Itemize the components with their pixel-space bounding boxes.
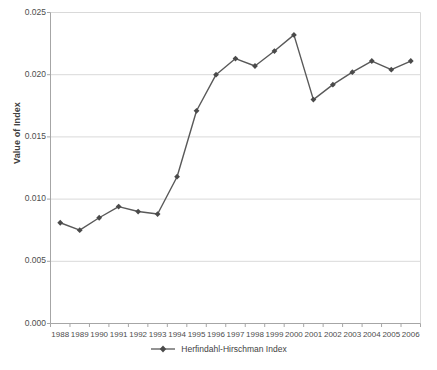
data-point-marker — [369, 58, 375, 64]
x-axis-tick-label: 1991 — [110, 331, 128, 339]
data-point-marker — [408, 58, 414, 64]
x-axis-tick-label: 1996 — [207, 331, 225, 339]
data-point-marker — [116, 204, 122, 210]
line-chart-plot — [0, 0, 437, 370]
series-line — [60, 35, 411, 230]
y-axis-tick-label: 0.020 — [2, 70, 46, 79]
x-axis-tick-label: 1993 — [149, 331, 167, 339]
data-point-marker — [57, 220, 63, 226]
x-axis-tick-label: 1997 — [227, 331, 245, 339]
x-axis-tick-label: 1999 — [266, 331, 284, 339]
x-axis-tick-label: 1998 — [246, 331, 264, 339]
series-herfindahl-hirschman-index — [57, 32, 413, 233]
data-point-marker — [194, 108, 200, 114]
x-axis-tick-label: 2004 — [363, 331, 381, 339]
legend-marker-icon — [150, 344, 176, 354]
y-axis-tick-label: 0.015 — [2, 132, 46, 141]
data-point-marker — [155, 211, 161, 217]
x-axis-tick-label: 1995 — [188, 331, 206, 339]
chart-container: Value of Index 0.0250.0200.0150.0100.005… — [0, 0, 437, 370]
x-axis-tick-label: 1992 — [129, 331, 147, 339]
y-axis-tick-label: 0.025 — [2, 8, 46, 17]
x-axis-tick-label: 2002 — [324, 331, 342, 339]
x-axis-tick-label: 2005 — [382, 331, 400, 339]
x-axis-tick-label: 2000 — [285, 331, 303, 339]
data-point-marker — [135, 209, 141, 215]
chart-legend: Herfindahl-Hirschman Index — [0, 344, 437, 356]
y-axis-tick-label: 0.000 — [2, 319, 46, 328]
x-axis-tick-label: 1994 — [168, 331, 186, 339]
x-axis-ticks — [51, 324, 421, 328]
x-axis-tick-label: 1988 — [51, 331, 69, 339]
data-point-marker — [174, 174, 180, 180]
x-axis-tick-label: 1989 — [71, 331, 89, 339]
y-axis-tick-label: 0.005 — [2, 256, 46, 265]
x-axis-tick-label: 2001 — [304, 331, 322, 339]
legend-label-herfindahl-hirschman-index: Herfindahl-Hirschman Index — [181, 345, 286, 354]
data-point-marker — [388, 67, 394, 73]
x-axis-tick-label: 1990 — [90, 331, 108, 339]
x-axis-tick-label: 2003 — [343, 331, 361, 339]
y-axis-tick-label: 0.010 — [2, 194, 46, 203]
x-axis-tick-label: 2006 — [402, 331, 420, 339]
